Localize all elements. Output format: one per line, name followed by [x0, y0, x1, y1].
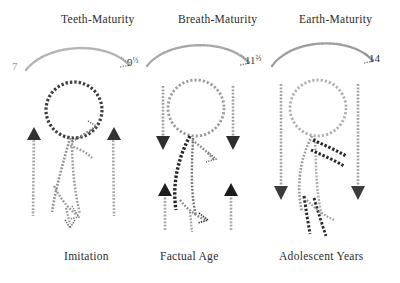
arc-earth-maturity [272, 43, 374, 66]
age-whole-14: 14 [369, 52, 380, 64]
arc-teeth-maturity [26, 48, 130, 70]
figure-imitation [27, 82, 121, 228]
age-label-14: 14 [369, 52, 380, 64]
footer-adolescent-years: Adolescent Years [279, 250, 364, 262]
footer-imitation: Imitation [64, 250, 109, 262]
age-fraction-9: ⅓ [133, 56, 139, 65]
diagram-svg [0, 0, 400, 283]
header-teeth-maturity: Teeth-Maturity [61, 13, 135, 25]
diagram-canvas [0, 0, 400, 283]
age-whole-7: 7 [12, 60, 18, 72]
figure-factual-age [156, 80, 240, 232]
arc-breath-maturity [147, 45, 250, 66]
age-whole-11: 11 [245, 54, 256, 66]
footer-factual-age: Factual Age [160, 250, 219, 262]
figure-adolescent-years [274, 80, 365, 236]
age-label-9-third: 9⅓ [127, 56, 139, 68]
header-earth-maturity: Earth-Maturity [299, 13, 372, 25]
age-label-11-twothirds: 11⅔ [245, 54, 262, 66]
age-fraction-11: ⅔ [256, 54, 262, 63]
header-breath-maturity: Breath-Maturity [178, 13, 257, 25]
age-label-7: 7 [12, 60, 18, 72]
